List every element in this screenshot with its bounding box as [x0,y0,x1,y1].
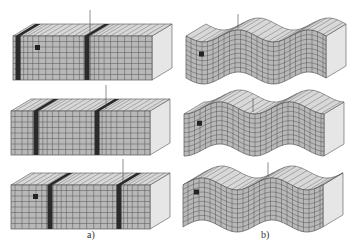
particle-marker [35,45,40,50]
shear-wave-frame-2 [184,90,344,156]
p-wave-frame-1 [13,10,172,80]
particle-marker [194,190,199,195]
particle-marker [197,121,202,126]
panel-label-b: b) [261,229,269,240]
p-wave-frame-3 [11,159,170,229]
particle-marker [199,52,204,57]
panel-label-a: a) [87,229,95,240]
particle-marker [33,194,38,199]
p-wave-frame-2 [11,85,170,155]
shear-wave-frame-3 [183,162,343,232]
shear-wave-frame-1 [186,14,346,84]
seismic-wave-diagram [0,0,355,244]
